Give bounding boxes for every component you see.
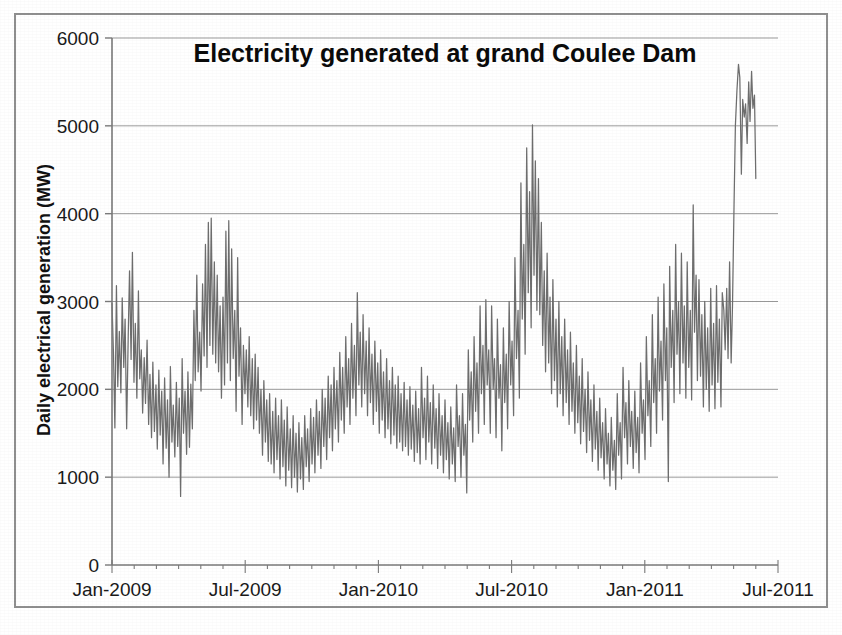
y-tick-label: 5000 bbox=[57, 116, 99, 137]
x-tick-labels-group: Jan-2009Jul-2009Jan-2010Jul-2010Jan-2011… bbox=[72, 579, 813, 600]
x-tick-label: Jan-2010 bbox=[339, 579, 418, 600]
y-tick-label: 2000 bbox=[57, 379, 99, 400]
x-minor-ticks-group bbox=[112, 560, 778, 573]
x-tick-label: Jul-2009 bbox=[209, 579, 282, 600]
x-tick-label: Jul-2010 bbox=[475, 579, 548, 600]
y-axis-title: Daily electrical generation (MW) bbox=[34, 164, 54, 436]
x-tick-label: Jul-2011 bbox=[742, 579, 813, 600]
y-tick-label: 0 bbox=[88, 555, 99, 576]
y-tick-labels-group: 0100020003000400050006000 bbox=[57, 28, 99, 576]
chart-title: Electricity generated at grand Coulee Da… bbox=[194, 39, 697, 67]
y-tick-label: 1000 bbox=[57, 467, 99, 488]
figure-root: 0100020003000400050006000 Jan-2009Jul-20… bbox=[0, 0, 842, 635]
x-tick-label: Jan-2009 bbox=[72, 579, 151, 600]
y-major-ticks-group bbox=[105, 38, 112, 565]
y-tick-label: 6000 bbox=[57, 28, 99, 49]
y-tick-label: 3000 bbox=[57, 292, 99, 313]
chart-canvas: 0100020003000400050006000 Jan-2009Jul-20… bbox=[0, 0, 842, 635]
data-series-line bbox=[112, 64, 756, 496]
x-tick-label: Jan-2011 bbox=[606, 579, 684, 600]
y-tick-label: 4000 bbox=[57, 204, 99, 225]
